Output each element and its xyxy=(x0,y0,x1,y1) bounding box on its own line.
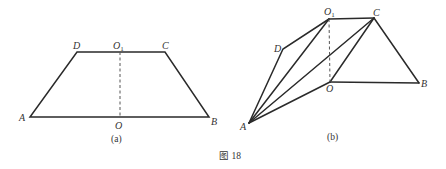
label-o: O xyxy=(326,83,333,94)
label-o1: O1 xyxy=(113,40,124,53)
edge-c-b xyxy=(374,18,419,83)
label-a: A xyxy=(18,112,26,123)
edge-a-o1 xyxy=(249,19,329,123)
panel-b: O1 C D A O B (b) xyxy=(239,6,427,143)
panel-a-label: (a) xyxy=(111,134,122,145)
label-c: C xyxy=(373,7,380,18)
label-c: C xyxy=(162,40,169,51)
label-o: O xyxy=(115,120,122,131)
label-b: B xyxy=(421,78,427,89)
edge-o1-c xyxy=(329,18,374,19)
figure-18: D O1 C A O B (a) O1 C D A O B (b) 图 18 xyxy=(0,0,446,169)
label-b: B xyxy=(211,116,217,127)
label-d: D xyxy=(273,43,282,54)
label-a: A xyxy=(239,121,247,132)
edge-a-c xyxy=(249,18,374,123)
panel-a: D O1 C A O B (a) xyxy=(18,40,217,145)
segment-oo1-dashed xyxy=(329,19,330,82)
edge-b-o xyxy=(330,82,419,83)
figure-caption: 图 18 xyxy=(219,151,241,161)
label-o1: O1 xyxy=(324,6,335,19)
panel-b-label: (b) xyxy=(327,132,338,143)
label-d: D xyxy=(72,40,81,51)
